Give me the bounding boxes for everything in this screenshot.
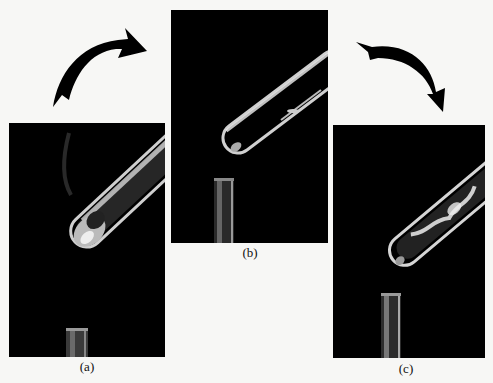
- photo-panel-b: [171, 10, 328, 243]
- empty-test-tube-image: [171, 10, 328, 243]
- caption-b: (b): [230, 245, 270, 261]
- condensed-residue-test-tube-image: [333, 125, 485, 358]
- caption-c: (c): [386, 361, 426, 377]
- test-tube-heating-image: [9, 123, 165, 357]
- photo-panel-a: [9, 123, 165, 357]
- photo-panel-c: [333, 125, 485, 358]
- caption-a: (a): [67, 359, 107, 375]
